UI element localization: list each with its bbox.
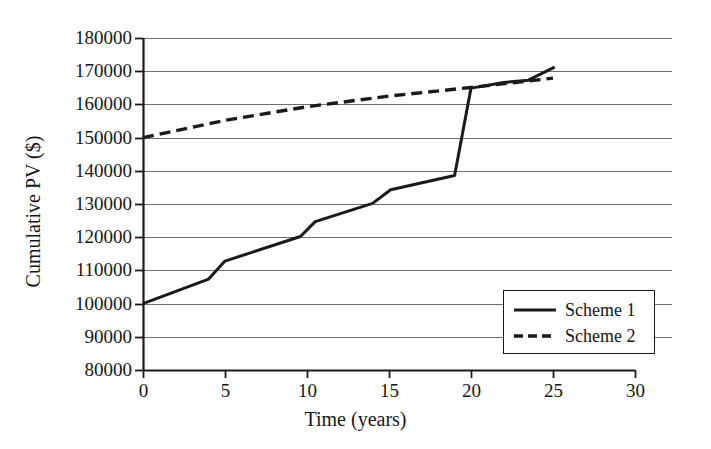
legend-swatch-solid	[513, 303, 557, 317]
x-axis-title: Time (years)	[0, 408, 711, 431]
series-line-2	[143, 78, 553, 137]
y-axis-title: Cumulative PV ($)	[22, 97, 45, 327]
x-tick-label: 0	[104, 380, 184, 402]
legend-label-scheme-2: Scheme 2	[565, 326, 635, 347]
legend-label-scheme-1: Scheme 1	[565, 300, 635, 321]
x-tick-label: 5	[186, 380, 266, 402]
legend-entry-scheme-2: Scheme 2	[504, 323, 654, 349]
legend-entry-scheme-1: Scheme 1	[504, 297, 654, 323]
x-tick-label: 10	[268, 380, 348, 402]
y-tick-label: 180000	[20, 27, 132, 49]
x-tick-label: 15	[350, 380, 430, 402]
y-tick-label: 80000	[20, 359, 132, 381]
x-tick-label: 25	[514, 380, 594, 402]
data-series-group	[143, 67, 555, 303]
x-tick-label: 30	[596, 380, 676, 402]
chart-figure: 8000090000100000110000120000130000140000…	[0, 0, 711, 449]
y-tick-label: 90000	[20, 326, 132, 348]
y-tick-marks	[135, 39, 143, 371]
y-tick-label: 170000	[20, 60, 132, 82]
x-tick-label: 20	[432, 380, 512, 402]
legend-swatch-dashed	[513, 329, 557, 343]
chart-legend: Scheme 1 Scheme 2	[503, 290, 655, 354]
